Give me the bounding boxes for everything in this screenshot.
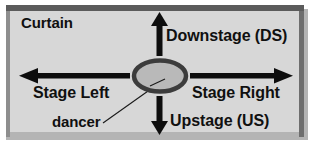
right-arrow-icon — [190, 68, 293, 84]
label-stage-left: Stage Left — [33, 85, 109, 101]
down-arrow-icon — [151, 96, 168, 135]
label-stage-right: Stage Right — [192, 85, 280, 101]
left-arrow-icon — [19, 68, 130, 84]
label-upstage: Upstage (US) — [170, 113, 269, 129]
label-curtain: Curtain — [21, 15, 73, 30]
label-downstage: Downstage (DS) — [166, 28, 287, 44]
dancer-ellipse-marker — [134, 61, 186, 92]
label-dancer: dancer — [52, 114, 101, 129]
stage-directions-diagram: Curtain Downstage (DS) Stage Left Stage … — [0, 0, 312, 147]
